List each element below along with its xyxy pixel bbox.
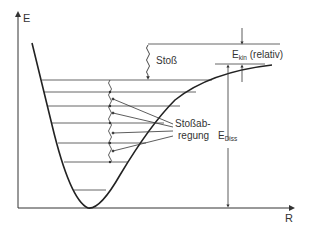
potential-curve [32, 43, 272, 208]
collision-excitation-label-1: Stoßab- [175, 118, 211, 129]
collision-label: Stoß [156, 55, 177, 66]
x-axis-label: R [285, 212, 293, 224]
ekin-label: Ekin (relativ) [232, 49, 283, 61]
collision-excitation-label-2: regung [178, 130, 209, 141]
y-axis-label: E [23, 12, 30, 24]
collision-wavy-arrow [147, 45, 150, 78]
potential-energy-diagram: E R Stoß Stoßab- regung Ekin (relativ) [0, 0, 309, 233]
